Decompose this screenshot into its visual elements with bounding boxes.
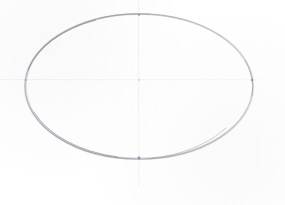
right-tangent-mark [251, 79, 253, 81]
axis-intersection [138, 79, 140, 81]
vertical-guide-axis [139, 0, 140, 191]
drawing-canvas [0, 0, 285, 205]
horizontal-guide-axis [0, 80, 265, 81]
sketch-svg [0, 0, 285, 205]
top-tangent-mark [138, 14, 140, 16]
bottom-tangent-mark [138, 157, 141, 160]
left-tangent-mark [25, 79, 27, 81]
paper-background [0, 0, 285, 205]
